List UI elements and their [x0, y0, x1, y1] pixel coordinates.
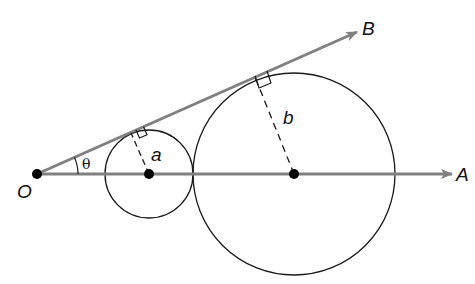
- label-radius-b: b: [283, 107, 294, 128]
- label-theta: θ: [82, 156, 90, 172]
- label-b-ray: B: [362, 18, 375, 39]
- radius-a: [131, 133, 149, 174]
- label-o: O: [17, 181, 32, 202]
- angle-arc: [75, 157, 79, 174]
- label-radius-a: a: [151, 144, 162, 165]
- center-large: [289, 169, 299, 179]
- point-o: [32, 169, 42, 179]
- diagram: O A B θ a b: [0, 0, 475, 284]
- ray-ob: [37, 32, 357, 174]
- center-small: [144, 169, 154, 179]
- tangent-circles-figure: O A B θ a b: [0, 0, 475, 284]
- label-a-ray: A: [455, 164, 469, 185]
